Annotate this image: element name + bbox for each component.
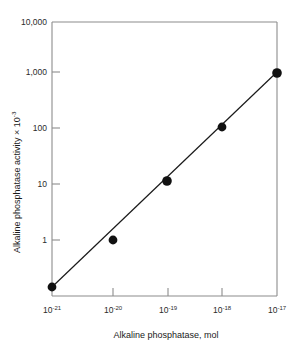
chart-figure: 10,000 1,000 100 10 1 10-21 10-20 10-19 … (0, 0, 305, 344)
y-tick-label-100: 100 (33, 123, 47, 133)
x-tick-mantissa: 10 (268, 305, 278, 315)
x-tick-mantissa: 10 (104, 305, 114, 315)
data-point (162, 176, 172, 186)
x-tick-mantissa: 10 (213, 305, 223, 315)
x-axis-tick-labels: 10-21 10-20 10-19 10-18 10-17 (43, 305, 287, 316)
x-tick-mantissa: 10 (159, 305, 169, 315)
x-tick-exponent: -19 (168, 305, 177, 311)
x-tick-label-1e-19: 10-19 (159, 305, 178, 316)
x-tick-exponent: -21 (52, 305, 61, 311)
x-tick-label-1e-21: 10-21 (43, 305, 62, 316)
x-tick-exponent: -18 (222, 305, 231, 311)
y-tick-label-1: 1 (42, 235, 47, 245)
y-axis-tick-labels: 10,000 1,000 100 10 1 (21, 17, 47, 245)
x-tick-label-1e-18: 10-18 (213, 305, 232, 316)
x-tick-label-1e-17: 10-17 (268, 305, 287, 316)
x-tick-exponent: -17 (277, 305, 286, 311)
data-point (272, 68, 282, 78)
x-tick-mantissa: 10 (43, 305, 53, 315)
data-point (109, 236, 118, 245)
x-tick-label-1e-20: 10-20 (104, 305, 123, 316)
x-tick-exponent: -20 (113, 305, 122, 311)
y-axis-title-text: Alkaline phosphatase activity × 10 (12, 117, 22, 253)
x-axis-ticks (113, 288, 222, 296)
y-axis-title-exponent: -3 (10, 111, 17, 117)
data-point (48, 283, 57, 292)
y-tick-label-10: 10 (38, 179, 48, 189)
data-point (218, 123, 227, 132)
y-tick-label-10000: 10,000 (21, 17, 47, 27)
alkaline-phosphatase-log-log-plot: 10,000 1,000 100 10 1 10-21 10-20 10-19 … (0, 0, 305, 344)
y-axis-ticks (52, 72, 60, 240)
x-axis-title: Alkaline phosphatase, mol (113, 330, 218, 340)
y-tick-label-1000: 1,000 (26, 67, 48, 77)
y-axis-title: Alkaline phosphatase activity × 10-3 (10, 111, 22, 253)
